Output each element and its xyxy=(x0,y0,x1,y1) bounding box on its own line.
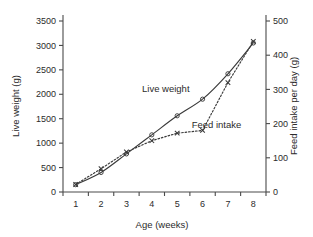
x-tick-label: 1 xyxy=(73,199,78,209)
left-tick-label: 0 xyxy=(51,187,56,197)
left-axis-title: Live weight (g) xyxy=(10,75,21,137)
growth-feed-chart: 0500100015002000250030003500 Live weight… xyxy=(0,0,313,237)
right-tick-label: 0 xyxy=(273,187,278,197)
right-axis: 0100200300400500 Feed intake per day (g) xyxy=(266,15,299,197)
right-tick-label: 500 xyxy=(273,16,288,26)
x-axis-title: Age (weeks) xyxy=(136,219,189,230)
x-tick-label: 6 xyxy=(200,199,205,209)
left-tick-label: 500 xyxy=(41,163,56,173)
live-weight-line xyxy=(76,43,254,185)
feed-intake-point xyxy=(150,138,155,143)
x-tick-label: 5 xyxy=(175,199,180,209)
right-axis-title: Feed intake per day (g) xyxy=(288,57,299,155)
live-weight-markers xyxy=(74,41,256,187)
chart-container: 0500100015002000250030003500 Live weight… xyxy=(0,0,313,237)
right-tick-label: 400 xyxy=(273,50,288,60)
left-axis-tick-labels: 0500100015002000250030003500 xyxy=(36,16,56,197)
feed-intake-line xyxy=(76,42,254,185)
x-axis-tick-labels: 12345678 xyxy=(73,199,256,209)
right-tick-label: 300 xyxy=(273,85,288,95)
left-axis-ticks xyxy=(59,21,63,192)
plot-area xyxy=(73,39,255,187)
right-tick-label: 100 xyxy=(273,153,288,163)
x-tick-label: 8 xyxy=(251,199,256,209)
right-axis-tick-labels: 0100200300400500 xyxy=(273,16,288,197)
x-axis-ticks xyxy=(63,192,266,196)
left-axis: 0500100015002000250030003500 Live weight… xyxy=(10,15,63,197)
right-axis-ticks xyxy=(266,21,270,192)
left-tick-label: 2500 xyxy=(36,65,56,75)
left-tick-label: 1500 xyxy=(36,114,56,124)
left-tick-label: 2000 xyxy=(36,89,56,99)
x-tick-label: 2 xyxy=(99,199,104,209)
left-tick-label: 3500 xyxy=(36,16,56,26)
feed-intake-point xyxy=(226,80,231,85)
x-tick-label: 3 xyxy=(124,199,129,209)
x-tick-label: 7 xyxy=(225,199,230,209)
left-tick-label: 1000 xyxy=(36,138,56,148)
live-weight-label: Live weight xyxy=(142,83,190,94)
left-tick-label: 3000 xyxy=(36,41,56,51)
feed-intake-label: Feed intake xyxy=(192,119,242,130)
right-tick-label: 200 xyxy=(273,119,288,129)
x-tick-label: 4 xyxy=(149,199,154,209)
x-axis: 12345678 Age (weeks) xyxy=(63,192,266,230)
feed-intake-markers xyxy=(73,39,255,187)
